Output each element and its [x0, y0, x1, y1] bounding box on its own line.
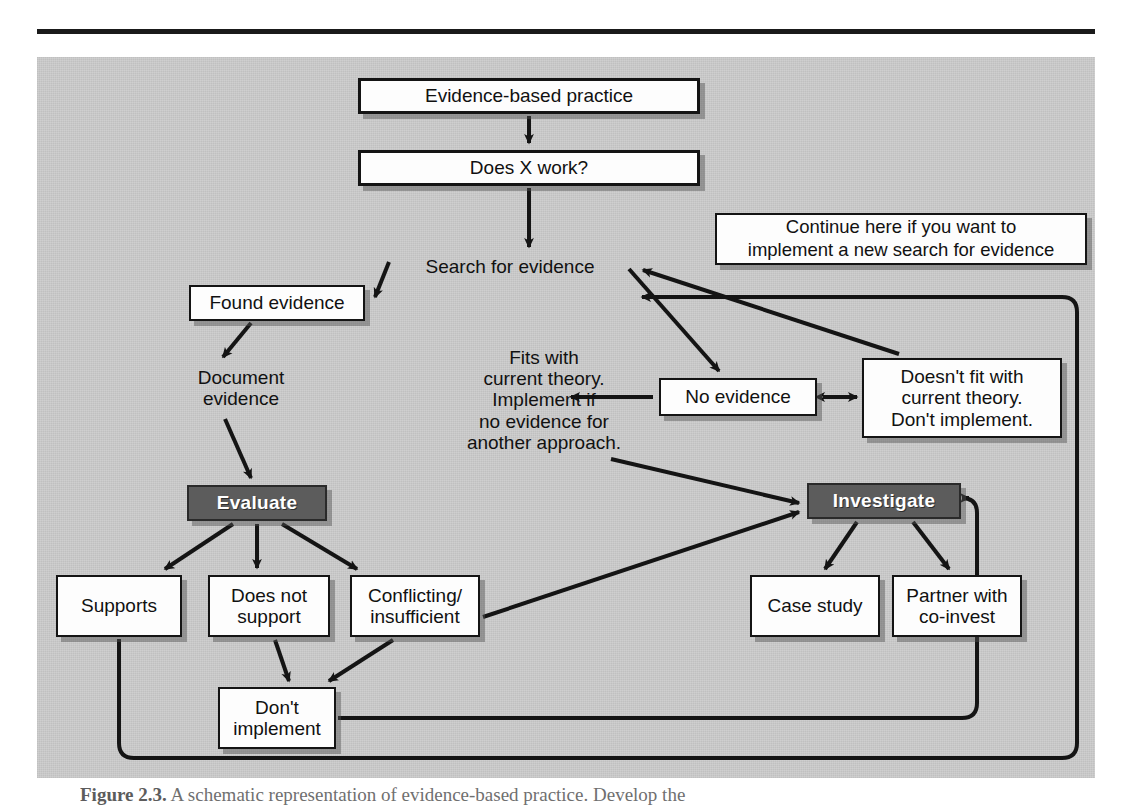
node-label: Partner with co-invest: [906, 585, 1007, 628]
doesntfit-line-3: Don't implement.: [891, 409, 1033, 430]
node-search-for-evidence[interactable]: Search for evidence: [395, 253, 625, 281]
node-label: Does X work?: [470, 157, 588, 178]
node-label: Found evidence: [209, 292, 344, 313]
node-label: Document evidence: [198, 367, 285, 410]
dontimpl-line-1: Don't: [255, 697, 299, 718]
conflicting-line-1: Conflicting/: [368, 585, 462, 606]
document-line-1: Document: [198, 367, 285, 388]
node-supports[interactable]: Supports: [56, 575, 182, 637]
figure-panel: Evidence-based practice Does X work? Sea…: [37, 57, 1095, 778]
node-label: Does not support: [231, 585, 307, 628]
node-label: Supports: [81, 595, 157, 616]
node-fits-with-current-theory: Fits with current theory. Implement if n…: [449, 346, 639, 454]
node-label: Don't implement: [233, 697, 321, 740]
node-found-evidence[interactable]: Found evidence: [189, 285, 365, 321]
figure-caption: Figure 2.3. A schematic representation o…: [80, 782, 1080, 808]
node-label: Evidence-based practice: [425, 85, 633, 106]
node-case-study[interactable]: Case study: [750, 575, 880, 637]
node-does-x-work[interactable]: Does X work?: [358, 150, 700, 186]
node-conflicting-insufficient[interactable]: Conflicting/ insufficient: [350, 575, 480, 637]
fits-line-2: current theory.: [483, 368, 604, 389]
node-label: Investigate: [833, 490, 936, 511]
node-label: Case study: [767, 595, 862, 616]
document-line-2: evidence: [203, 388, 279, 409]
caption-body: A schematic representation of evidence-b…: [170, 784, 685, 805]
node-label: Doesn't fit with current theory. Don't i…: [891, 366, 1033, 430]
caption-number: Figure 2.3.: [80, 784, 167, 805]
node-doesnt-fit-with-current-theory[interactable]: Doesn't fit with current theory. Don't i…: [862, 358, 1062, 438]
callout-text: Continue here if you want to implement a…: [748, 216, 1054, 261]
node-no-evidence[interactable]: No evidence: [659, 378, 817, 416]
doesntfit-line-1: Doesn't fit with: [901, 366, 1024, 387]
node-label: Conflicting/ insufficient: [368, 585, 462, 628]
doesntfit-line-2: current theory.: [901, 387, 1022, 408]
node-continue-here-callout[interactable]: Continue here if you want to implement a…: [715, 213, 1087, 265]
page-top-rule: [37, 29, 1095, 34]
node-label: Search for evidence: [426, 256, 595, 277]
callout-line-1: Continue here if you want to: [786, 216, 1016, 237]
node-label: No evidence: [685, 386, 791, 407]
node-does-not-support[interactable]: Does not support: [208, 575, 330, 637]
node-evidence-based-practice[interactable]: Evidence-based practice: [358, 78, 700, 114]
partner-line-1: Partner with: [906, 585, 1007, 606]
conflicting-line-2: insufficient: [370, 606, 459, 627]
node-document-evidence[interactable]: Document evidence: [171, 362, 311, 414]
dontimpl-line-2: implement: [233, 718, 321, 739]
node-partner-with-co-invest[interactable]: Partner with co-invest: [892, 575, 1022, 637]
fits-line-3: Implement if: [492, 389, 595, 410]
node-label: Fits with current theory. Implement if n…: [467, 347, 621, 453]
fits-line-5: another approach.: [467, 432, 621, 453]
fits-line-4: no evidence for: [479, 411, 609, 432]
partner-line-2: co-invest: [919, 606, 995, 627]
fits-line-1: Fits with: [509, 347, 579, 368]
node-label: Evaluate: [217, 492, 298, 513]
node-evaluate[interactable]: Evaluate: [187, 485, 327, 521]
node-investigate[interactable]: Investigate: [807, 483, 961, 519]
doesnot-line-1: Does not: [231, 585, 307, 606]
doesnot-line-2: support: [237, 606, 300, 627]
callout-line-2: implement a new search for evidence: [748, 239, 1054, 260]
node-dont-implement[interactable]: Don't implement: [218, 687, 336, 749]
